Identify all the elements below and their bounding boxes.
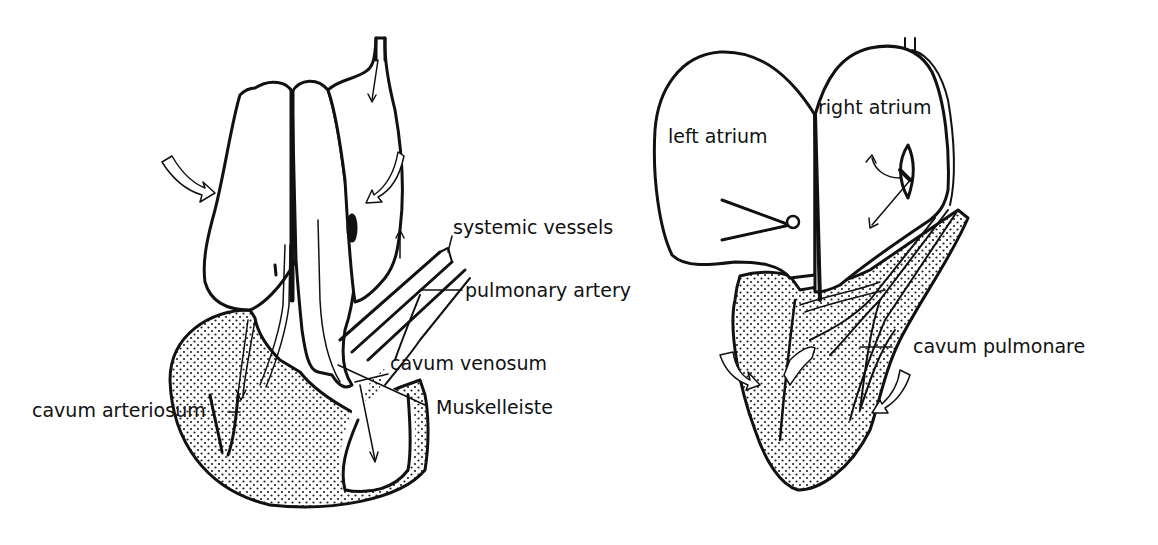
label-right-atrium: right atrium bbox=[818, 98, 931, 117]
left-atrium bbox=[654, 52, 815, 278]
left-heart-drawing bbox=[162, 38, 470, 507]
left-lobe bbox=[204, 82, 296, 310]
label-pulmonary-artery: pulmonary artery bbox=[465, 281, 631, 300]
label-systemic-vessels: systemic vessels bbox=[453, 218, 613, 237]
label-muskelleiste: Muskelleiste bbox=[436, 398, 553, 417]
label-cavum-arteriosum: cavum arteriosum bbox=[32, 401, 206, 420]
label-cavum-venosum: cavum venosum bbox=[390, 354, 547, 373]
inflow-arrow-left bbox=[162, 156, 215, 202]
diagram-drawing bbox=[0, 0, 1158, 545]
label-left-atrium: left atrium bbox=[668, 127, 768, 146]
label-cavum-pulmonare: cavum pulmonare bbox=[913, 337, 1085, 356]
heart-diagram: systemic vessels pulmonary artery cavum … bbox=[0, 0, 1158, 545]
